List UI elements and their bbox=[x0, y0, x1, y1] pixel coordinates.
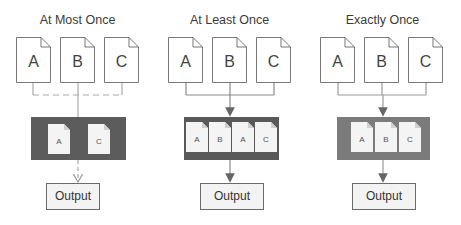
queued-message-b: B bbox=[209, 122, 231, 152]
input-document-a: A bbox=[168, 37, 203, 83]
queued-message-c: C bbox=[399, 122, 421, 152]
document-label: A bbox=[16, 53, 51, 71]
message-label: C bbox=[88, 137, 110, 146]
panel-title: At Least Once bbox=[152, 13, 307, 27]
document-label: C bbox=[408, 53, 443, 71]
document-label: C bbox=[256, 53, 291, 71]
message-label: A bbox=[351, 135, 373, 144]
panel-exactly-once: Exactly Once A B C A B C Output bbox=[304, 0, 461, 225]
input-document-c: C bbox=[408, 37, 443, 83]
document-label: A bbox=[320, 53, 355, 71]
delivery-queue: A B A C bbox=[184, 117, 279, 160]
queued-message-b: B bbox=[375, 122, 397, 152]
queued-message-c: C bbox=[88, 124, 110, 154]
queued-message-a: A bbox=[48, 124, 70, 154]
message-label: C bbox=[399, 135, 421, 144]
message-label: C bbox=[255, 135, 277, 144]
output-box: Output bbox=[200, 183, 264, 210]
queued-message-a: A bbox=[186, 122, 208, 152]
delivery-queue: A C bbox=[31, 117, 126, 160]
output-box: Output bbox=[46, 183, 100, 210]
queued-message-a: A bbox=[351, 122, 373, 152]
input-document-a: A bbox=[320, 37, 355, 83]
document-label: B bbox=[60, 53, 95, 71]
panel-title: At Most Once bbox=[0, 13, 155, 27]
document-label: A bbox=[168, 53, 203, 71]
input-document-c: C bbox=[104, 37, 139, 83]
input-document-a: A bbox=[16, 37, 51, 83]
queued-message-c: C bbox=[255, 122, 277, 152]
document-label: B bbox=[364, 53, 399, 71]
document-label: B bbox=[212, 53, 247, 71]
input-document-b: B bbox=[212, 37, 247, 83]
message-label: A bbox=[186, 135, 208, 144]
message-label: A bbox=[48, 137, 70, 146]
delivery-queue: A B C bbox=[337, 117, 430, 160]
output-box: Output bbox=[352, 183, 416, 210]
panel-title: Exactly Once bbox=[304, 13, 461, 27]
message-label: B bbox=[209, 135, 231, 144]
input-document-c: C bbox=[256, 37, 291, 83]
document-label: C bbox=[104, 53, 139, 71]
input-document-b: B bbox=[364, 37, 399, 83]
input-document-b: B bbox=[60, 37, 95, 83]
message-label: B bbox=[375, 135, 397, 144]
panel-at-most-once: At Most Once A B C A C Output bbox=[0, 0, 155, 225]
message-label: A bbox=[232, 135, 254, 144]
queued-message-a-duplicate: A bbox=[232, 122, 254, 152]
panel-at-least-once: At Least Once A B C A B A C Output bbox=[152, 0, 307, 225]
